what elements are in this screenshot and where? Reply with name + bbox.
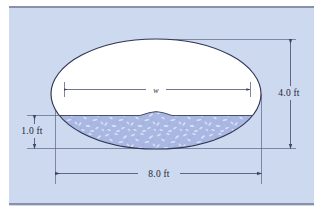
w-label: w — [153, 86, 159, 95]
depth-label: 1.0 ft — [21, 126, 42, 136]
panel-top-rule — [9, 6, 314, 8]
panel-bottom-rule — [9, 203, 314, 205]
tank-cross-section-diagram: w 4.0 ft 1.0 ft 8.0 ft — [0, 0, 323, 212]
width-label: 8.0 ft — [148, 169, 169, 179]
height-label: 4.0 ft — [278, 88, 299, 98]
figure-container: w 4.0 ft 1.0 ft 8.0 ft — [0, 0, 323, 212]
